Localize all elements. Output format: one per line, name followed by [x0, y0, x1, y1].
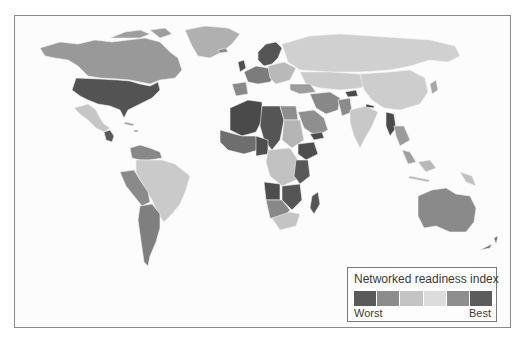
region-canadian-arctic: [110, 28, 172, 38]
region-india: [350, 106, 378, 148]
region-indonesia: [408, 160, 436, 182]
legend-swatch-6: [470, 291, 492, 306]
region-mexico: [74, 104, 110, 132]
region-png: [460, 172, 476, 186]
region-angola: [264, 182, 280, 200]
region-nepal: [366, 104, 374, 108]
region-central-africa: [266, 148, 298, 186]
legend-swatch-1: [354, 291, 377, 306]
legend-low-label: Worst: [354, 307, 383, 319]
legend-swatch-2: [377, 291, 400, 306]
region-myanmar: [386, 112, 396, 136]
region-ethiopia: [298, 142, 318, 160]
region-colombia-venezuela: [130, 145, 162, 160]
region-argentina-chile: [138, 204, 160, 266]
legend-swatch-4: [424, 291, 447, 306]
region-russia: [282, 34, 460, 72]
region-australia: [418, 188, 476, 232]
legend-title: Networked readiness index: [354, 272, 499, 286]
region-madagascar: [310, 192, 320, 214]
region-canada-alaska: [40, 38, 182, 84]
region-kyrgyzstan: [345, 90, 358, 97]
region-malaysia: [402, 150, 416, 164]
map-legend: Networked readiness index Worst Best: [347, 267, 497, 322]
region-north-africa-west: [230, 100, 262, 136]
region-caribbean: [124, 122, 138, 132]
region-thailand-indochina: [394, 126, 410, 146]
legend-swatch-3: [400, 291, 423, 306]
legend-high-label: Best: [469, 307, 491, 319]
region-kenya-tanzania: [294, 160, 310, 184]
region-greenland: [185, 26, 240, 58]
region-iberia: [232, 82, 248, 96]
region-central-america: [104, 130, 114, 142]
legend-color-scale: [354, 291, 492, 306]
region-uk: [238, 60, 246, 72]
legend-swatch-5: [447, 291, 470, 306]
region-new-zealand: [480, 236, 498, 250]
region-scandinavia: [258, 42, 282, 66]
region-eastern-europe: [268, 62, 296, 84]
region-china: [360, 70, 428, 110]
region-japan: [430, 80, 438, 94]
